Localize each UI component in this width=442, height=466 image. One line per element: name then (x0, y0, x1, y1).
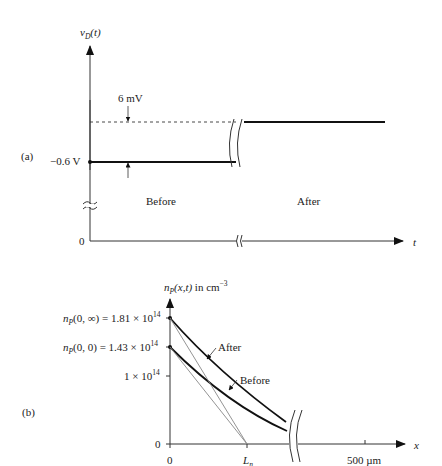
after-label-a: After (297, 196, 320, 207)
xlabel-x: x (414, 440, 419, 451)
panel-a-label: (a) (21, 151, 33, 162)
diagram-canvas (0, 0, 442, 466)
tick-zero-x-b: 0 (167, 455, 173, 466)
tick-np-00: nP(0, 0) = 1.43 × 1014 (63, 342, 158, 353)
after-label-b: After (218, 342, 241, 353)
panel-a-ylabel: vD(t) (80, 27, 101, 38)
xlabel-t: t (413, 237, 416, 248)
delta-6mv-label: 6 mV (118, 93, 143, 104)
tick-1e14: 1 × 1014 (124, 371, 160, 382)
panel-b-label: (b) (22, 407, 35, 418)
tick-500um: 500 µm (347, 455, 381, 466)
tick-zero-a: 0 (79, 236, 85, 247)
before-label-a: Before (146, 196, 176, 207)
before-label-b: Before (240, 375, 270, 386)
tick-zero-y-b: 0 (155, 439, 161, 450)
tick-ln: Ln (243, 455, 253, 466)
panel-b-ylabel: nP(x,t) in cm−3 (164, 282, 228, 293)
tick-np-inf: nP(0, ∞) = 1.81 × 1014 (63, 313, 160, 324)
panel-b-axes (166, 299, 405, 462)
panel-a-axes (83, 46, 403, 247)
tick-neg-0-6v: −0.6 V (50, 156, 80, 167)
panel-a-signal (88, 106, 385, 178)
